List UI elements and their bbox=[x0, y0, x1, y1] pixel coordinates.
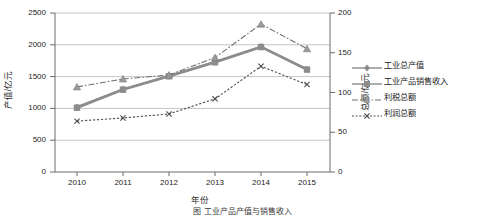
x-marker-icon bbox=[352, 108, 382, 120]
y-left-tick-0: 0 bbox=[12, 167, 46, 176]
triangle-marker-icon bbox=[352, 92, 382, 104]
plot-frame bbox=[55, 13, 330, 172]
legend-label-3: 利润总额 bbox=[384, 108, 416, 120]
legend-label-2: 利税总额 bbox=[384, 92, 416, 104]
y-right-tick-200: 200 bbox=[338, 8, 372, 17]
x-axis-title: 年份 bbox=[150, 193, 250, 205]
y-left-tick-2000: 2000 bbox=[12, 40, 46, 49]
series-1 bbox=[74, 44, 310, 111]
x-tick-2013: 2013 bbox=[195, 178, 235, 187]
diamond-marker-icon bbox=[352, 60, 382, 72]
figure-caption: 图 工业产品产值与销售收入 bbox=[0, 205, 485, 215]
legend-label-0: 工业总产值 bbox=[384, 60, 424, 72]
legend-item-3[interactable]: 利润总额 bbox=[352, 106, 485, 122]
axis-x-ticks bbox=[77, 172, 307, 176]
y-right-tick-0: 0 bbox=[338, 167, 372, 176]
x-tick-2015: 2015 bbox=[287, 178, 327, 187]
gridlines bbox=[55, 13, 330, 140]
x-tick-2011: 2011 bbox=[103, 178, 143, 187]
x-tick-2012: 2012 bbox=[149, 178, 189, 187]
y-right-tick-150: 150 bbox=[338, 48, 372, 57]
series-2 bbox=[73, 21, 310, 90]
y-left-tick-1500: 1500 bbox=[12, 72, 46, 81]
legend-item-0[interactable]: 工业总产值 bbox=[352, 58, 485, 74]
legend-item-1[interactable]: 工业产品销售收入 bbox=[352, 74, 485, 90]
y-left-tick-2500: 2500 bbox=[12, 8, 46, 17]
legend-label-1: 工业产品销售收入 bbox=[384, 76, 448, 88]
axis-right-ticks bbox=[330, 13, 335, 172]
x-tick-2010: 2010 bbox=[57, 178, 97, 187]
y-right-tick-50: 50 bbox=[338, 127, 372, 136]
square-marker-icon bbox=[352, 76, 382, 88]
x-tick-2014: 2014 bbox=[241, 178, 281, 187]
y-left-tick-1000: 1000 bbox=[12, 103, 46, 112]
legend-item-2[interactable]: 利税总额 bbox=[352, 90, 485, 106]
y-axis-left-title: 产值/亿元 bbox=[1, 57, 13, 123]
axis-left-ticks bbox=[50, 13, 55, 172]
chart-legend: 工业总产值 工业产品销售收入 利税总额 bbox=[352, 58, 485, 122]
chart-figure: 产值/亿元 总额/亿元 年份 2500 2000 1500 1000 500 0… bbox=[0, 0, 485, 215]
y-left-tick-500: 500 bbox=[12, 135, 46, 144]
